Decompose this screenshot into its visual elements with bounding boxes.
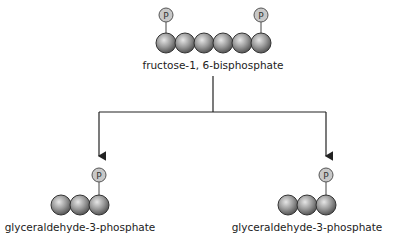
- phosphate-icon: P: [254, 8, 268, 22]
- phosphate-icon: P: [319, 168, 333, 182]
- svg-text:P: P: [323, 171, 329, 181]
- fructose-bisphosphate-molecule: P P: [156, 8, 271, 53]
- phosphate-icon: P: [92, 168, 106, 182]
- product-label-right: glyceraldehyde-3-phosphate: [232, 221, 383, 233]
- product-label-left: glyceraldehyde-3-phosphate: [5, 221, 156, 233]
- gap-molecule-left: P: [51, 168, 109, 215]
- svg-text:P: P: [163, 11, 169, 21]
- svg-text:P: P: [96, 171, 102, 181]
- diagram-canvas: P P P P: [0, 0, 394, 238]
- svg-text:P: P: [258, 11, 264, 21]
- source-label: fructose-1, 6-bisphosphate: [142, 59, 283, 71]
- split-arrows: [99, 76, 326, 156]
- phosphate-icon: P: [159, 8, 173, 22]
- gap-molecule-right: P: [278, 168, 336, 215]
